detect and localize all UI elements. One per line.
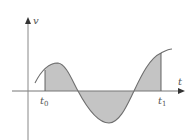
t-axis-label: t bbox=[178, 76, 183, 87]
sinusoid-area-diagram: v t t0 t1 bbox=[0, 0, 196, 140]
t1-label: t1 bbox=[158, 95, 167, 108]
v-axis-arrow-icon bbox=[25, 17, 31, 24]
shaded-area bbox=[45, 53, 161, 123]
t0-label-subscript: 0 bbox=[44, 100, 48, 108]
t0-label: t0 bbox=[40, 95, 49, 108]
v-axis-label: v bbox=[33, 15, 39, 26]
t-axis-arrow-icon bbox=[178, 88, 185, 94]
t1-label-subscript: 1 bbox=[162, 100, 166, 108]
